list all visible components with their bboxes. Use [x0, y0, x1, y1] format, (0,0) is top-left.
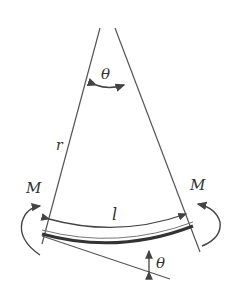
- tangent-angle-label: θ: [156, 254, 165, 272]
- moment-right-label: M: [189, 176, 206, 194]
- left-radius-line: [42, 28, 100, 244]
- apex-angle-label: θ: [101, 65, 110, 83]
- moment-left-label: M: [25, 179, 42, 197]
- radius-label: r: [56, 137, 64, 153]
- apex-angle-arrow: [96, 85, 124, 88]
- beam-upper-edge: [42, 222, 193, 238]
- right-radius-line: [115, 28, 200, 252]
- moment-left-arrow: [21, 206, 40, 255]
- arc-length-arrow: [49, 214, 186, 227]
- moment-right-arrow: [198, 204, 220, 246]
- bending-diagram: θ r M M l θ: [0, 0, 240, 299]
- arc-length-label: l: [112, 205, 117, 224]
